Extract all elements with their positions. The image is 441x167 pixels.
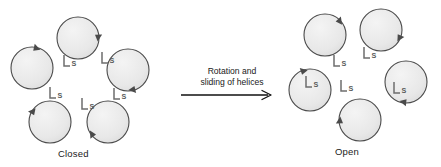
helix-glyph xyxy=(364,47,370,58)
helix-glyph xyxy=(334,55,340,66)
helix-label-s: S xyxy=(349,84,354,93)
figure-canvas: SSSSS SSSSS Rotation and sliding of heli… xyxy=(0,0,441,167)
subunit-circle xyxy=(57,17,99,59)
caption-open: Open xyxy=(335,146,359,157)
helix-glyph xyxy=(82,98,88,109)
transition-label-line1: Rotation and xyxy=(186,66,278,77)
transition-label-line2: sliding of helices xyxy=(180,77,284,88)
helix-glyph xyxy=(114,88,120,99)
helix-glyph xyxy=(341,80,347,91)
transition-arrow xyxy=(181,91,271,100)
helix-label-s: S xyxy=(372,51,377,60)
subunit-circle xyxy=(11,47,53,89)
helix-label-s: S xyxy=(342,59,347,68)
helix-glyph xyxy=(50,87,56,98)
helix-label-s: S xyxy=(90,102,95,111)
caption-closed: Closed xyxy=(58,148,89,159)
subunit-circle xyxy=(339,99,381,141)
helix-label-s: S xyxy=(314,80,319,89)
helix-label-s: S xyxy=(72,59,77,68)
helix-glyph xyxy=(102,52,108,63)
helix-label-s: S xyxy=(110,56,115,65)
state-open: SSSSS xyxy=(289,9,427,141)
state-closed: SSSSS xyxy=(11,17,149,143)
helix-label-s: S xyxy=(402,86,407,95)
subunit-circle xyxy=(360,9,402,51)
subunit-circle xyxy=(385,61,427,103)
helix-label-s: S xyxy=(58,91,63,100)
subunit-circle xyxy=(289,69,331,111)
helix-label-s: S xyxy=(122,92,127,101)
subunit-circle xyxy=(29,101,71,143)
